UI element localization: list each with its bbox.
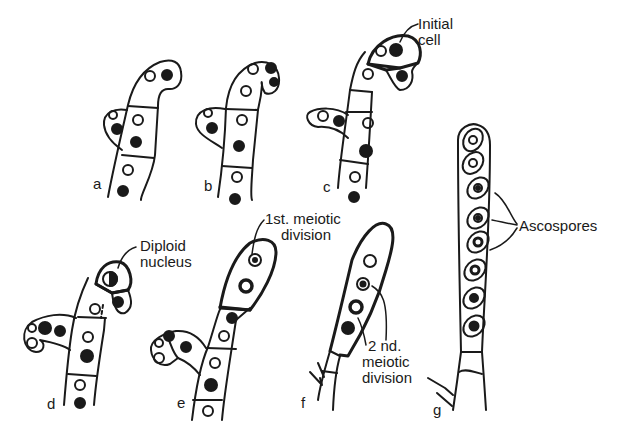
- initial-cell-label-line2: cell: [418, 32, 453, 48]
- stage-label-e: e: [177, 395, 185, 411]
- first-meiotic-division-label: 1st. meiotic division: [265, 211, 341, 243]
- ascospores-label: Ascospores: [519, 218, 597, 234]
- stage-label-c: c: [323, 179, 331, 195]
- stage-d-hypha: [24, 262, 131, 408]
- diploid-nucleus-label: Diploid nucleus: [140, 238, 192, 270]
- first-meiotic-pointer: [252, 220, 264, 254]
- stage-label-b: b: [204, 178, 212, 194]
- ascospore-1: [459, 125, 487, 155]
- stage-label-g: g: [433, 402, 441, 418]
- stage-label-f: f: [301, 395, 305, 411]
- ascospore-2: [458, 148, 487, 178]
- second-meiotic-label-line2: meiotic: [362, 354, 412, 370]
- initial-cell-label-line1: Initial: [418, 16, 453, 32]
- initial-cell-label: Initial cell: [418, 16, 453, 48]
- ascus-development-diagram: a b c d e f g Initial cell Diploid nucle…: [0, 0, 629, 433]
- diploid-nucleus-label-line1: Diploid: [140, 238, 192, 254]
- stage-label-d: d: [47, 396, 55, 412]
- first-meiotic-label-line2: division: [265, 227, 341, 243]
- diploid-nucleus-label-line2: nucleus: [140, 254, 192, 270]
- stage-label-a: a: [93, 176, 101, 192]
- second-meiotic-division-label: 2 nd. meiotic division: [362, 338, 412, 386]
- stage-a-hypha: [104, 60, 181, 200]
- first-meiotic-label-line1: 1st. meiotic: [265, 211, 341, 227]
- second-meiotic-label-line1: 2 nd.: [362, 338, 412, 354]
- second-meiotic-label-line3: division: [362, 370, 412, 386]
- stage-g-ascus: [428, 124, 517, 410]
